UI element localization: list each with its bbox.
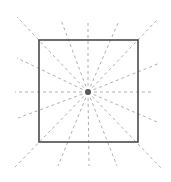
dashed-ray [17,17,88,92]
dashed-ray [18,92,88,118]
radial-lines-diagram [0,0,171,182]
dashed-ray [88,23,118,92]
dashed-ray [88,92,161,168]
dashed-ray [58,92,88,166]
dashed-ray [88,20,157,92]
dashed-ray [14,92,88,168]
center-point [85,89,91,95]
dashed-ray [88,92,89,166]
dashed-ray [88,92,157,122]
dashed-ray [88,92,117,166]
diagram-canvas [0,0,171,182]
